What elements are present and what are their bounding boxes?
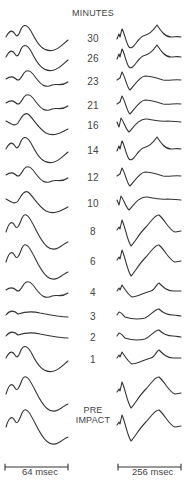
minute-label: 12 [70,172,116,183]
waveform-256msec [117,25,181,48]
minute-label: 23 [70,76,116,87]
scale-label-256: 256 msec [132,466,173,477]
pre-impact-line-2: IMPACT [70,415,116,425]
waveform-256msec [117,410,181,441]
waveform-256msec [117,96,181,114]
minute-label: 26 [70,53,116,64]
waveform-256msec [117,330,181,340]
waveform-256msec [117,118,181,132]
waveform-64msec [6,138,68,163]
waveform-64msec [6,282,68,298]
minute-label: 6 [70,256,116,267]
minute-label: 21 [70,100,116,111]
waveform-64msec [6,245,68,279]
waveform-64msec [6,192,68,213]
waveform-64msec [6,95,68,111]
minute-label: 16 [70,120,116,131]
waveform-256msec [117,137,181,160]
waveform-64msec [6,347,68,372]
minute-label: 10 [70,198,116,209]
waveform-256msec [117,215,181,246]
waveform-64msec [6,114,68,135]
waveform-256msec [117,350,181,364]
minute-label: 4 [70,287,116,298]
waveform-256msec [117,72,181,90]
waveform-256msec [117,377,181,408]
waveform-256msec [117,168,181,186]
minute-label: 14 [70,145,116,156]
waveform-256msec [117,196,181,210]
waveform-256msec [117,245,181,276]
minute-label: 2 [70,332,116,343]
minute-label: 3 [70,311,116,322]
waveform-64msec [6,26,68,51]
waveform-64msec [6,46,68,71]
waveform-64msec [6,215,68,249]
minute-label: 8 [70,226,116,237]
waveform-64msec [6,167,68,183]
waveform-64msec [6,332,68,338]
pre-impact-label: PRE IMPACT [70,405,116,425]
waveform-256msec [117,309,181,319]
minute-label: 30 [70,33,116,44]
waveform-256msec [117,283,181,297]
waveform-64msec [6,377,68,411]
waveform-256msec [117,45,181,68]
scale-label-64: 64 msec [22,466,58,477]
pre-impact-line-1: PRE [70,405,116,415]
waveform-64msec [6,410,68,444]
minute-label: 1 [70,354,116,365]
waveform-64msec [6,311,68,317]
minutes-header: MINUTES [70,8,116,19]
waveform-64msec [6,71,68,87]
